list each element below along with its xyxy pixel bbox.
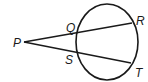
label-P: P (13, 36, 21, 50)
secant-PT (24, 42, 131, 63)
label-R: R (136, 14, 145, 28)
circle (76, 4, 138, 80)
label-T: T (135, 66, 144, 80)
secant-diagram: P Q R S T (0, 0, 148, 82)
label-Q: Q (66, 21, 75, 35)
label-S: S (65, 53, 73, 67)
